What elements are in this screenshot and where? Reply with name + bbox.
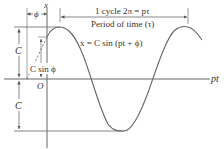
origin-label: O: [37, 81, 44, 91]
amplitude-bottom-label: C: [15, 100, 22, 111]
t-axis-label: pt: [210, 73, 219, 84]
shm-diagram: pt x O C C ϕ C sin ϕ 1: [0, 0, 224, 149]
equation-label: x = C sin (pt + ϕ): [80, 38, 142, 48]
c-sin-phi-label: C sin ϕ: [30, 64, 56, 74]
period-label: Period of time (τ): [91, 19, 154, 29]
phase-label: ϕ: [34, 9, 39, 19]
cycle-label: 1 cycle 2π = pτ: [95, 6, 150, 16]
x-axis-label: x: [43, 0, 48, 10]
amplitude-top-label: C: [15, 45, 22, 56]
